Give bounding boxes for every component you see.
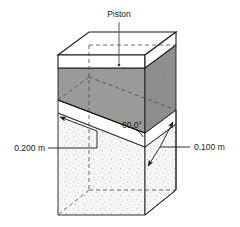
piston-front-face (58, 55, 145, 68)
piston-label: Piston (107, 9, 131, 19)
physics-diagram: 60.0° Piston 0.200 m 0.100 m (0, 0, 240, 227)
piston-leader-dot (118, 64, 121, 67)
left-dimension-label: 0.200 m (14, 143, 45, 153)
angle-label: 60.0° (122, 120, 142, 130)
right-dimension-label: 0.100 m (194, 142, 225, 152)
